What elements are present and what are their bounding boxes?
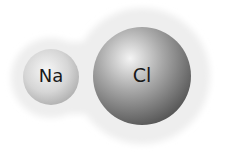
sodium-label: Na — [31, 65, 71, 86]
chlorine-label: Cl — [122, 64, 162, 86]
